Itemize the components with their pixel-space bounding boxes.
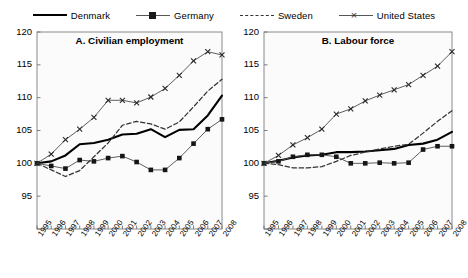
legend-label-united-states: United States	[377, 10, 435, 21]
legend-item-denmark: Denmark	[33, 10, 110, 21]
y-axis-label: 115	[230, 58, 259, 69]
panel-civilian-employment: A. Civilian employment951001051101151201…	[0, 30, 228, 278]
data-point-marker-square	[92, 159, 97, 164]
data-point-marker-square	[134, 160, 139, 165]
data-point-marker-square	[363, 161, 368, 166]
plot-frame	[264, 32, 452, 229]
plot-area-a: A. Civilian employment951001051101151201…	[0, 30, 228, 278]
y-axis-label: 100	[3, 157, 32, 168]
y-axis-label: 100	[230, 157, 259, 168]
panel-title: A. Civilian employment	[37, 35, 222, 46]
legend-item-germany: Germany	[136, 10, 214, 21]
data-point-marker-square	[220, 117, 225, 122]
data-point-marker-square	[291, 154, 296, 159]
data-point-marker-square	[421, 147, 426, 152]
y-axis-label: 95	[3, 190, 32, 201]
data-point-marker-square	[106, 156, 111, 161]
data-point-marker-square	[348, 161, 353, 166]
data-point-marker-square	[435, 144, 440, 149]
data-point-marker-square	[149, 168, 154, 173]
data-point-marker-square	[49, 164, 54, 169]
data-point-marker-square	[450, 144, 455, 149]
solid-line-key-icon	[33, 10, 67, 21]
dashed-line-key-icon	[240, 10, 274, 21]
y-axis-label: 115	[3, 58, 32, 69]
y-axis-label: 120	[230, 26, 259, 37]
legend-item-sweden: Sweden	[240, 10, 313, 21]
panel-labour-force: B. Labour force9510010511011512019951996…	[228, 30, 468, 278]
data-point-marker-square	[191, 141, 196, 146]
data-point-marker-square	[392, 161, 397, 166]
y-axis-label: 105	[230, 124, 259, 135]
legend-item-united-states: × United States	[339, 10, 435, 21]
square-marker-line-key-icon	[136, 10, 170, 21]
legend-label-sweden: Sweden	[278, 10, 313, 21]
data-point-marker-square	[320, 153, 325, 158]
legend-label-denmark: Denmark	[71, 10, 110, 21]
data-point-marker-square	[406, 160, 411, 165]
chart-canvas	[0, 30, 228, 278]
legend-label-germany: Germany	[174, 10, 214, 21]
panel-title: B. Labour force	[264, 35, 452, 46]
data-point-marker-square	[377, 160, 382, 165]
data-point-marker-square	[276, 159, 281, 164]
y-axis-label: 110	[230, 91, 259, 102]
data-point-marker-square	[63, 166, 68, 171]
chart-canvas	[228, 30, 468, 278]
cross-marker-line-key-icon: ×	[339, 10, 373, 21]
y-axis-label: 95	[230, 190, 259, 201]
chart-page: Denmark Germany Sweden × United States A…	[0, 0, 468, 278]
data-point-marker-square	[305, 153, 310, 158]
y-axis-label: 120	[3, 26, 32, 37]
chart-legend: Denmark Germany Sweden × United States	[0, 6, 468, 24]
data-point-marker-square	[177, 156, 182, 161]
data-point-marker-square	[77, 158, 82, 163]
data-point-marker-square	[120, 154, 125, 159]
data-point-marker-square	[334, 154, 339, 159]
data-point-marker-square	[205, 127, 210, 132]
plot-area-b: B. Labour force9510010511011512019951996…	[228, 30, 468, 278]
data-point-marker-square	[163, 168, 168, 173]
y-axis-label: 105	[3, 124, 32, 135]
y-axis-label: 110	[3, 91, 32, 102]
